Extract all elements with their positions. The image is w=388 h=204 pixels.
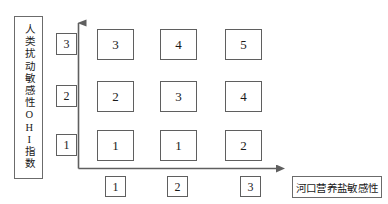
y-tick-3: 3 (56, 33, 77, 55)
matrix-cell-r3-c1: 3 (97, 29, 134, 60)
x-axis-title: 河口营养盐敏感性 (292, 176, 382, 198)
x-tick-3-label: 3 (248, 181, 254, 193)
y-tick-2-label: 2 (64, 90, 70, 102)
x-tick-1: 1 (105, 176, 126, 197)
matrix-cell-value: 4 (175, 38, 182, 51)
y-tick-1-label: 1 (64, 139, 70, 151)
y-axis-title-text: 人类扰动敏感性OHI指数 (23, 24, 34, 170)
y-tick-2: 2 (56, 85, 77, 107)
matrix-cell-value: 4 (240, 90, 247, 103)
matrix-cell-r1-c3: 2 (225, 130, 262, 161)
matrix-cell-value: 1 (112, 139, 119, 152)
x-tick-2: 2 (167, 176, 188, 197)
matrix-cell-value: 2 (112, 90, 119, 103)
y-tick-3-label: 3 (64, 38, 70, 50)
matrix-cell-value: 1 (175, 139, 182, 152)
x-tick-3: 3 (240, 176, 261, 197)
y-tick-1: 1 (56, 134, 77, 156)
matrix-cell-r1-c2: 1 (160, 130, 197, 161)
matrix-cell-value: 5 (240, 38, 247, 51)
matrix-cell-r2-c1: 2 (97, 81, 134, 112)
matrix-cell-value: 2 (240, 139, 247, 152)
matrix-cell-r2-c3: 4 (225, 81, 262, 112)
matrix-cell-r1-c1: 1 (97, 130, 134, 161)
matrix-cell-r3-c3: 5 (225, 29, 262, 60)
matrix-cell-r2-c2: 3 (160, 81, 197, 112)
matrix-cell-value: 3 (175, 90, 182, 103)
x-tick-1-label: 1 (113, 181, 119, 193)
x-axis-title-text: 河口营养盐敏感性 (296, 180, 378, 195)
x-tick-2-label: 2 (175, 181, 181, 193)
matrix-cell-r3-c2: 4 (160, 29, 197, 60)
risk-matrix-figure: 人类扰动敏感性OHI指数 3 2 1 3 4 5 2 3 4 1 1 2 1 2 (0, 0, 388, 204)
matrix-cell-value: 3 (112, 38, 119, 51)
y-axis-title: 人类扰动敏感性OHI指数 (14, 16, 43, 179)
